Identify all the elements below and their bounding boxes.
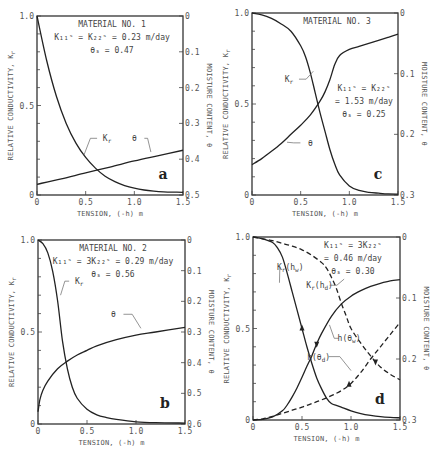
y-tick-label: 1.0 — [21, 236, 36, 245]
y2-tick-label: 0.2 — [402, 355, 417, 364]
y2-tick-label: 0.3 — [185, 119, 200, 128]
figure: 00.51.000.10.20.30.40.500.51.01.5TENSION… — [0, 0, 434, 450]
parameter-annotation: K₁₁ˢ = K₂₂ˢ = 0.23 m/day — [54, 33, 170, 42]
y2-axis-label: MOISTURE CONTENT, θ — [207, 290, 215, 374]
y2-axis-label: MOISTURE CONTENT, θ — [205, 64, 213, 148]
panel-letter: c — [374, 166, 383, 182]
x-axis-label: TENSION, (-h) m — [77, 210, 143, 218]
x-tick-label: 0 — [250, 198, 255, 207]
parameter-annotation: = 1.53 m/day — [335, 97, 393, 106]
parameter-annotation: K₁₁ˢ = 3K₂₂ˢ = 0.29 m/day — [53, 257, 174, 266]
leader-line — [329, 357, 351, 371]
x-tick-label: 1.5 — [391, 198, 406, 207]
x-tick-label: 0.5 — [295, 423, 310, 432]
parameter-annotation: θₛ = 0.30 — [331, 267, 375, 276]
parameter-annotation: K₁₁ˢ = 3K₂₂ˢ — [324, 241, 382, 250]
y2-tick-label: 0 — [400, 9, 405, 18]
x-tick-label: 0.5 — [78, 198, 93, 207]
x-axis-label: TENSION, (-h) m — [293, 435, 359, 443]
y2-tick-label: 0.1 — [400, 70, 415, 79]
direction-arrow-icon — [373, 359, 378, 365]
x-tick-label: 0 — [35, 198, 40, 207]
y2-tick-label: 0 — [402, 233, 407, 242]
material-title: MATERIAL NO. 3 — [303, 17, 371, 26]
x-tick-label: 0 — [36, 427, 41, 436]
x-tick-label: 1.5 — [393, 423, 408, 432]
leader-line — [61, 281, 70, 295]
material-title: MATERIAL NO. 2 — [79, 244, 147, 253]
y2-tick-label: 0 — [187, 236, 192, 245]
y-axis-label: RELATIVE CONDUCTIVITY, Kr — [8, 277, 17, 387]
y2-tick-label: 0.1 — [402, 294, 417, 303]
curve-label: Kr(hw) — [277, 263, 304, 273]
y2-axis-label: MOISTURE CONTENT, θ — [420, 62, 428, 146]
y2-tick-label: 0.2 — [185, 84, 200, 93]
x-tick-label: 1.0 — [344, 423, 359, 432]
y-tick-label: 1.0 — [20, 12, 35, 21]
parameter-annotation: K₁₁ˢ = K₂₂ˢ — [338, 84, 391, 93]
material-title: MATERIAL NO. 1 — [78, 20, 146, 29]
y2-tick-label: 0.5 — [187, 389, 202, 398]
x-tick-label: 1.0 — [127, 198, 142, 207]
leader-line — [287, 142, 300, 143]
curve-label: θ — [132, 134, 137, 143]
y-tick-label: 0 — [245, 416, 250, 425]
x-tick-label: 0 — [251, 423, 256, 432]
x-tick-label: 1.0 — [129, 427, 144, 436]
y-tick-label: 0 — [30, 420, 35, 429]
x-axis-label: TENSION, (-h) m — [292, 210, 358, 218]
y2-tick-label: 0.2 — [400, 130, 415, 139]
curve-label: Kr — [285, 75, 294, 85]
curve-label: θ — [111, 310, 116, 319]
y-tick-label: 0.5 — [235, 100, 250, 109]
y-axis-label: RELATIVE CONDUCTIVITY, Kr — [222, 49, 231, 159]
curve-label: θ — [308, 139, 313, 148]
x-tick-label: 1.5 — [178, 427, 193, 436]
panel-c: 00.51.000.10.20.300.51.01.5TENSION, (-h)… — [222, 9, 428, 218]
curve-label: h(θd) — [307, 353, 330, 363]
parameter-annotation: = 0.46 m/day — [324, 254, 382, 263]
panel-letter: a — [158, 166, 167, 182]
direction-arrow-icon — [300, 325, 305, 331]
y-axis-label: RELATIVE CONDUCTIVITY, Kr — [7, 50, 16, 160]
x-tick-label: 1.0 — [342, 198, 357, 207]
y2-axis-label: MOISTURE CONTENT, θ — [422, 287, 430, 371]
panel-letter: d — [375, 391, 385, 407]
panel-letter: b — [160, 395, 170, 411]
panel-a: 00.51.000.10.20.30.40.500.51.01.5TENSION… — [7, 12, 213, 218]
x-tick-label: 0.5 — [293, 198, 308, 207]
parameter-annotation: θₛ = 0.47 — [90, 46, 134, 55]
panel-d: 00.51.000.10.20.300.51.01.5TENSION, (-h)… — [223, 233, 430, 443]
x-axis-label: TENSION, (-h) m — [78, 439, 144, 447]
curve-label: Kr — [103, 134, 112, 144]
y2-tick-label: 0.1 — [187, 267, 202, 276]
y-tick-label: 1.0 — [236, 233, 251, 242]
y2-tick-label: 0.1 — [185, 48, 200, 57]
panel-b: 00.51.000.10.20.30.40.50.600.51.01.5TENS… — [8, 236, 215, 447]
y2-tick-label: 0.4 — [185, 155, 200, 164]
y2-tick-label: 0.4 — [187, 359, 202, 368]
leader-line — [84, 138, 97, 155]
x-tick-label: 1.5 — [176, 198, 191, 207]
parameter-annotation: θₛ = 0.25 — [342, 110, 386, 119]
parameter-annotation: θₛ = 0.56 — [91, 270, 135, 279]
y2-tick-label: 0 — [185, 12, 190, 21]
y-tick-label: 0 — [244, 191, 249, 200]
y-tick-label: 1.0 — [235, 9, 250, 18]
curve-label: Kr — [75, 277, 84, 287]
x-tick-label: 0.5 — [80, 427, 95, 436]
y-axis-label: RELATIVE CONDUCTIVITY, Kr — [223, 273, 232, 383]
y2-tick-label: 0.2 — [187, 297, 202, 306]
y-tick-label: 0 — [29, 191, 34, 200]
leader-line — [123, 314, 140, 328]
y2-tick-label: 0.3 — [187, 328, 202, 337]
y-tick-label: 0.5 — [21, 328, 36, 337]
leader-line — [144, 138, 151, 152]
leader-line — [279, 267, 280, 283]
curve-label: h(θw) — [338, 334, 361, 344]
y-tick-label: 0.5 — [236, 325, 251, 334]
curve-label: Kr(hd) — [306, 281, 333, 291]
y-tick-label: 0.5 — [20, 102, 35, 111]
